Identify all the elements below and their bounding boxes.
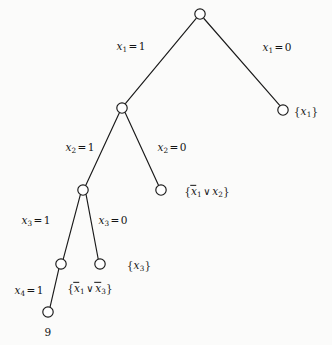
edge-label-x2-false: x2=0: [158, 142, 187, 154]
dpll-search-tree-figure: x1=1 x1=0 x2=1 x2=0 x3=1 x3=0 x4=1 {x1} …: [0, 0, 332, 345]
node-x3-true: [56, 259, 66, 269]
leaf-label-clause-nx1-or-x2: {x1∨x2}: [184, 186, 230, 198]
value-x1-true: 1: [139, 40, 146, 52]
edge-n2-n3: [63, 195, 80, 259]
node-x1-true: [117, 103, 127, 113]
edge-label-x1-false: x1=0: [263, 42, 292, 54]
edge-label-x3-true: x3=1: [22, 215, 51, 227]
edge-label-x3-false: x3=0: [99, 215, 128, 227]
value-x4-true: 1: [37, 284, 44, 296]
edge-label-x1-true: x1=1: [117, 41, 146, 53]
node-caption-9: 9: [45, 327, 52, 338]
edge-root-n1: [126, 18, 197, 103]
node-leaf-nx1-x2: [156, 185, 166, 195]
value-x3-true: 1: [44, 214, 51, 226]
leaf-label-clause-x1: {x1}: [294, 106, 318, 118]
value-x3-false: 0: [121, 214, 128, 226]
node-leaf-x1: [278, 105, 288, 115]
leaf-label-clause-nx1-or-nx3: {x1∨x3}: [67, 283, 113, 295]
node-leaf-x3: [95, 259, 105, 269]
value-x2-false: 0: [180, 141, 187, 153]
edge-n1-leafB: [125, 113, 158, 185]
edge-n2-leafC: [86, 195, 98, 259]
edge-n3-n4: [50, 269, 59, 307]
edge-label-x4-true: x4=1: [15, 285, 44, 297]
node-x4-true: [43, 307, 53, 317]
node-x2-true: [78, 185, 88, 195]
value-x2-true: 1: [88, 141, 95, 153]
tree-edges: [50, 18, 279, 307]
leaf-label-clause-x3: {x3}: [127, 260, 151, 272]
edge-root-leafA: [204, 19, 280, 106]
value-x1-false: 0: [285, 41, 292, 53]
node-root: [195, 9, 205, 19]
edge-label-x2-true: x2=1: [66, 142, 95, 154]
